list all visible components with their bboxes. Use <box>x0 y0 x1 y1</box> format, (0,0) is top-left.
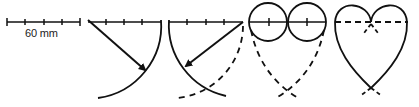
step-2-arc-from-left <box>88 19 161 98</box>
step-4-two-circles <box>249 3 326 98</box>
heart-construction-diagram <box>0 0 419 107</box>
step-3-arc-from-right <box>169 19 243 98</box>
step-5-heart <box>335 5 408 96</box>
scale-label: 60 mm <box>25 27 58 39</box>
scale-bar <box>7 18 80 26</box>
